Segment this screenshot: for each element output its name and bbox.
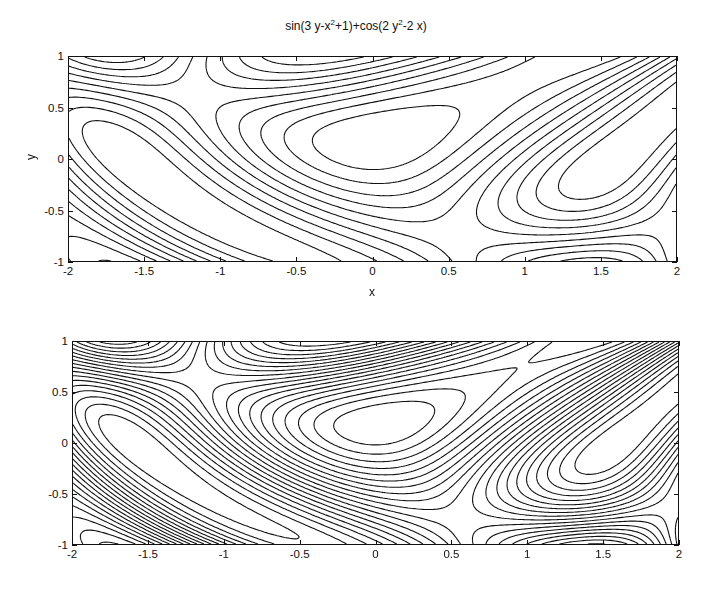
x-tick-mark [449, 56, 450, 61]
y-tick-mark [68, 56, 73, 57]
x-tick-mark [144, 257, 145, 262]
y-tick-label: 0.5 [48, 102, 64, 114]
y-tick-mark [72, 443, 77, 444]
x-tick-mark [373, 56, 374, 61]
x-tick-label: -0.5 [286, 265, 306, 277]
x-tick-mark [451, 341, 452, 346]
y-tick-label: 1 [62, 335, 68, 347]
x-tick-mark [527, 540, 528, 545]
x-tick-mark [376, 540, 377, 545]
x-tick-label: -1.5 [138, 548, 158, 560]
x-tick-label: 1 [524, 548, 530, 560]
x-tick-mark [527, 341, 528, 346]
y-tick-mark [72, 392, 77, 393]
x-tick-label: 2 [676, 548, 682, 560]
x-tick-mark [603, 540, 604, 545]
x-tick-mark [224, 341, 225, 346]
y-tick-mark [72, 341, 77, 342]
y-tick-mark [674, 545, 679, 546]
y-tick-mark [672, 159, 677, 160]
x-tick-mark [449, 257, 450, 262]
x-tick-mark [148, 341, 149, 346]
x-tick-mark [296, 257, 297, 262]
y-tick-mark [72, 494, 77, 495]
x-tick-mark [679, 341, 680, 346]
top-contour-lines [69, 57, 676, 261]
x-tick-label: 1.5 [595, 548, 611, 560]
x-tick-mark [300, 341, 301, 346]
x-tick-mark [603, 341, 604, 346]
x-tick-label: 0 [369, 265, 375, 277]
y-tick-label: 0 [62, 437, 68, 449]
y-tick-mark [672, 262, 677, 263]
x-tick-label: -1.5 [134, 265, 154, 277]
x-tick-mark [373, 257, 374, 262]
y-tick-label: -1 [58, 539, 68, 551]
x-tick-mark [220, 257, 221, 262]
y-tick-label: 0.5 [52, 386, 68, 398]
bottom-contour-plot [72, 341, 679, 545]
top-contour-plot [68, 56, 677, 262]
x-tick-label: -1 [219, 548, 229, 560]
x-tick-mark [300, 540, 301, 545]
y-axis-label: y [24, 154, 38, 160]
y-tick-label: -0.5 [48, 488, 68, 500]
bottom-contour-lines [73, 342, 678, 544]
y-tick-mark [674, 443, 679, 444]
x-tick-mark [144, 56, 145, 61]
x-tick-mark [525, 257, 526, 262]
x-tick-mark [296, 56, 297, 61]
x-tick-mark [376, 341, 377, 346]
x-tick-label: 0.5 [443, 548, 459, 560]
chart-title: sin(3 y-x2+1)+cos(2 y2-2 x) [0, 18, 712, 33]
x-tick-label: -0.5 [290, 548, 310, 560]
x-tick-mark [148, 540, 149, 545]
y-tick-mark [672, 211, 677, 212]
y-tick-mark [672, 56, 677, 57]
y-tick-label: -0.5 [44, 205, 64, 217]
x-tick-mark [679, 540, 680, 545]
x-tick-mark [224, 540, 225, 545]
y-tick-label: 1 [58, 50, 64, 62]
x-tick-label: -1 [215, 265, 225, 277]
y-tick-mark [68, 262, 73, 263]
x-tick-mark [601, 257, 602, 262]
x-tick-mark [451, 540, 452, 545]
y-tick-mark [68, 211, 73, 212]
x-tick-mark [525, 56, 526, 61]
x-tick-mark [677, 257, 678, 262]
y-tick-mark [68, 159, 73, 160]
x-tick-label: 1 [522, 265, 528, 277]
x-tick-label: 2 [674, 265, 680, 277]
y-tick-label: -1 [54, 256, 64, 268]
x-tick-label: 0.5 [441, 265, 457, 277]
y-tick-mark [672, 108, 677, 109]
y-tick-mark [674, 494, 679, 495]
y-tick-mark [674, 392, 679, 393]
y-tick-mark [72, 545, 77, 546]
x-axis-label: x [369, 285, 375, 299]
x-tick-label: 1.5 [593, 265, 609, 277]
y-tick-label: 0 [58, 153, 64, 165]
x-tick-mark [220, 56, 221, 61]
x-tick-mark [677, 56, 678, 61]
y-tick-mark [674, 341, 679, 342]
x-tick-label: -2 [63, 265, 73, 277]
x-tick-label: -2 [67, 548, 77, 560]
x-tick-label: 0 [372, 548, 378, 560]
x-tick-mark [601, 56, 602, 61]
y-tick-mark [68, 108, 73, 109]
